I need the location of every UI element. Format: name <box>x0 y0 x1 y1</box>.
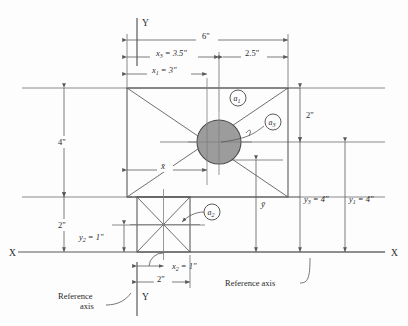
circular-hole <box>188 112 252 175</box>
dim-overall-width: 6" <box>127 31 288 88</box>
dim-label-left-height: 4" <box>58 137 66 147</box>
axis-lines <box>18 18 385 316</box>
dim-y2: y2= 1" <box>78 225 124 252</box>
dim-x1: x1= 3" <box>127 65 207 76</box>
dim-label-right-seg: 2.5" <box>245 48 259 58</box>
small-square <box>127 189 200 260</box>
dim-label-left-lower: 2" <box>58 220 66 230</box>
callout-label-a1: a1 <box>234 94 241 104</box>
dim-xbar: x̄ <box>127 161 207 172</box>
reference-axis-bottom-right: Reference axis <box>225 258 310 288</box>
dim-left-height: 4" <box>55 88 73 197</box>
callout-label-a2: a2 <box>208 208 215 218</box>
dim-label-y2: y2= 1" <box>78 232 104 243</box>
y-axis-label-top: Y <box>142 18 149 28</box>
centroid-diagram: X X Y Y 6" x3= 3.5" <box>0 0 408 326</box>
dim-label-overall-width: 6" <box>202 31 210 41</box>
callout-label-a3: a3 <box>269 118 276 128</box>
reference-axis-bottom-left: Reference axis <box>58 291 131 311</box>
dim-y1: y1= 4" <box>345 142 374 252</box>
dim-right-upper: 2" <box>300 88 321 142</box>
dim-label-xbar: x̄ <box>160 161 166 171</box>
dim-label-x1: x1= 3" <box>151 65 177 76</box>
reference-axis-label-right: Reference axis <box>225 278 275 288</box>
dim-x2: x2= 1" <box>137 253 197 272</box>
reference-axis-label-left-line1: Reference <box>58 291 93 301</box>
dim-x3: x3= 3.5" <box>127 48 219 112</box>
dim-label-y1: y1= 4" <box>348 194 374 205</box>
y-axis-label-bottom: Y <box>142 292 149 302</box>
dim-label-square-width: 2" <box>157 274 165 284</box>
dim-y3: y3= 4" <box>300 142 329 252</box>
dim-label-right-upper: 2" <box>306 110 314 120</box>
dim-left-lower: 2" <box>55 197 73 252</box>
x-axis-label-left: X <box>9 248 16 258</box>
dim-label-x2: x2= 1" <box>171 261 197 272</box>
reference-axis-label-left-line2: axis <box>80 301 94 311</box>
dim-right-seg: 2.5" <box>223 48 288 59</box>
callout-a1: a1 <box>230 90 246 106</box>
dim-label-y3: y3= 4" <box>303 194 329 205</box>
dim-ybar: ȳ <box>256 160 274 252</box>
callout-a2: a2 <box>182 204 220 222</box>
x-axis-label-right: X <box>391 248 398 258</box>
